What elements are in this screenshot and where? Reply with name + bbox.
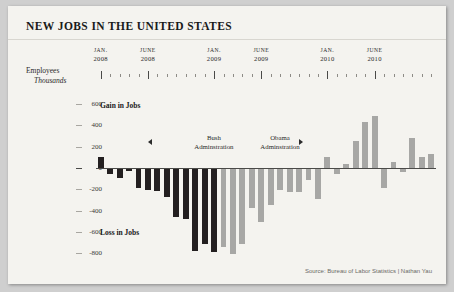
x-axis-minor-tick <box>157 74 158 77</box>
x-axis-label-year: 2010 <box>304 55 350 63</box>
bar <box>372 116 378 168</box>
x-axis-minor-tick <box>384 74 385 77</box>
x-axis-minor-tick <box>186 74 187 77</box>
obama-label-line2: Adminstration <box>260 143 299 150</box>
x-axis-minor-tick <box>224 74 225 77</box>
x-axis-major-tick <box>148 71 149 79</box>
right-arrow-icon <box>299 139 303 145</box>
x-axis-label-month: JAN. <box>191 47 237 55</box>
bar <box>306 169 312 180</box>
bar <box>287 169 293 192</box>
bar <box>296 169 302 192</box>
bar <box>154 169 160 191</box>
bar <box>315 169 321 199</box>
bar <box>173 169 179 217</box>
x-axis-minor-tick <box>110 74 111 77</box>
left-arrow-icon <box>148 139 152 145</box>
x-axis-minor-tick <box>318 74 319 77</box>
bar <box>126 169 132 171</box>
obama-label-line1: Obama <box>270 134 290 141</box>
bar <box>107 169 113 174</box>
bar <box>343 164 349 168</box>
x-axis-major-tick <box>261 71 262 79</box>
y-axis-zero-dash <box>76 168 82 169</box>
x-axis-label-3: JUNE2009 <box>238 47 284 62</box>
x-axis-label-1: JUNE2008 <box>125 47 171 62</box>
x-axis-minor-tick <box>431 74 432 77</box>
bar <box>353 141 359 168</box>
bar <box>391 162 397 168</box>
bar <box>258 169 264 222</box>
x-axis-minor-tick <box>129 74 130 77</box>
page-title: NEW JOBS IN THE UNITED STATES <box>26 20 232 32</box>
bar <box>362 122 368 168</box>
x-axis-minor-tick <box>412 74 413 77</box>
x-axis-minor-tick <box>346 74 347 77</box>
y-axis-tick-dash <box>76 253 82 254</box>
bar <box>381 169 387 188</box>
x-axis-minor-tick <box>233 74 234 77</box>
x-axis-label-0: JAN.2008 <box>78 47 124 62</box>
bar <box>400 169 406 172</box>
bar <box>409 138 415 168</box>
bar <box>277 169 283 190</box>
x-axis-minor-tick <box>309 74 310 77</box>
x-axis-major-tick <box>214 71 215 79</box>
x-axis-label-2: JAN.2009 <box>191 47 237 62</box>
x-axis-label-year: 2008 <box>78 55 124 63</box>
x-axis-tickbar <box>96 71 436 80</box>
bar <box>230 169 236 254</box>
x-axis-label-5: JUNE2010 <box>352 47 398 62</box>
x-axis-minor-tick <box>356 74 357 77</box>
x-axis-label-4: JAN.2010 <box>304 47 350 62</box>
x-axis-minor-tick <box>271 74 272 77</box>
x-axis-label-month: JUNE <box>352 47 398 55</box>
bar <box>117 169 123 178</box>
bar <box>334 169 340 174</box>
bar <box>192 169 198 251</box>
x-axis-minor-tick <box>139 74 140 77</box>
y-axis-tick-dash <box>76 189 82 190</box>
bar <box>221 169 227 247</box>
x-axis-label-year: 2009 <box>238 55 284 63</box>
bar <box>98 157 104 168</box>
x-axis-minor-tick <box>167 74 168 77</box>
x-axis-label-month: JUNE <box>238 47 284 55</box>
x-axis-minor-tick <box>195 74 196 77</box>
bar <box>183 169 189 219</box>
x-axis-major-tick <box>327 71 328 79</box>
plot-area: 6004002000-200-400-600-800 Gain in Jobs … <box>96 92 436 252</box>
bush-label-line1: Bush <box>207 134 221 141</box>
bar <box>211 169 217 252</box>
x-axis-label-year: 2008 <box>125 55 171 63</box>
x-axis-minor-tick <box>290 74 291 77</box>
x-axis-minor-tick <box>365 74 366 77</box>
title-divider <box>8 39 446 40</box>
chart-card: NEW JOBS IN THE UNITED STATES Employees … <box>8 6 446 284</box>
y-axis-tick-dash <box>76 125 82 126</box>
y-axis-tick-dash <box>76 211 82 212</box>
x-axis-minor-tick <box>299 74 300 77</box>
bar <box>136 169 142 188</box>
x-axis-minor-tick <box>280 74 281 77</box>
x-axis-label-year: 2009 <box>191 55 237 63</box>
bush-administration-label: Bush Adminstration <box>184 134 244 151</box>
x-axis-minor-tick <box>337 74 338 77</box>
x-axis-minor-tick <box>422 74 423 77</box>
bush-label-line2: Adminstration <box>194 143 233 150</box>
x-axis-minor-tick <box>242 74 243 77</box>
x-axis-minor-tick <box>205 74 206 77</box>
bar <box>202 169 208 244</box>
y-axis-unit-line2: Thousands <box>26 76 67 86</box>
x-axis-minor-tick <box>252 74 253 77</box>
bar <box>419 157 425 168</box>
y-axis-tick-dash <box>76 147 82 148</box>
loss-in-jobs-label: Loss in Jobs <box>100 228 139 237</box>
bar <box>164 169 170 197</box>
x-axis-major-tick <box>101 71 102 79</box>
y-axis-tick-dash <box>76 104 82 105</box>
bar <box>145 169 151 190</box>
x-axis-minor-tick <box>120 74 121 77</box>
bar <box>324 157 330 168</box>
x-axis-minor-tick <box>403 74 404 77</box>
